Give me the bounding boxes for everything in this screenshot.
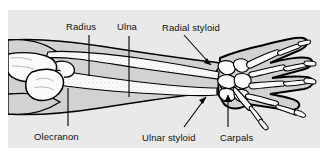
label-radius: Radius [66, 22, 96, 32]
label-olecranon: Olecranon [34, 132, 79, 142]
label-radial-styloid: Radial styloid [162, 23, 220, 33]
label-ulna: Ulna [117, 22, 137, 32]
label-ulnar-styloid: Ulnar styloid [142, 133, 196, 143]
figure-root: Radius Ulna Radial styloid Olecranon Uln… [0, 0, 335, 160]
label-carpals: Carpals [220, 133, 253, 143]
leader-ulnar-styloid [184, 97, 206, 127]
